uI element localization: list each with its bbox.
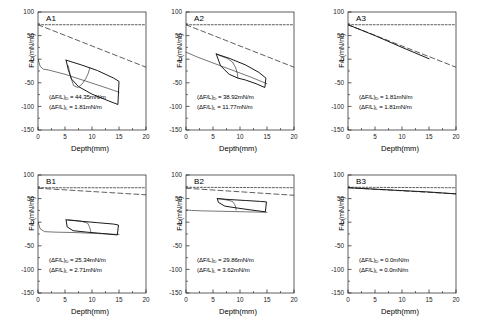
series-hysteresis-loop-outer: [217, 199, 266, 212]
y-axis-label: F/L(mN/m): [27, 179, 36, 249]
x-tick-label: 20: [452, 296, 460, 303]
y-tick-label: 100: [333, 171, 344, 178]
plot-area-b1: 100500-50-100-15005101520: [0, 163, 164, 327]
x-tick-label: 15: [115, 133, 123, 140]
y-tick-label: -100: [21, 103, 34, 110]
x-tick-label: 15: [425, 133, 433, 140]
x-tick-label: 0: [346, 296, 350, 303]
annotation-delta-l: (ΔF/L)L = 1.81mN/m: [49, 103, 102, 111]
annotation-delta-d: (ΔF/L)D = 0.0mN/m: [359, 256, 409, 264]
y-tick-label: -150: [169, 289, 182, 296]
chart-panel-a2: 100500-50-100-15005101520A2(ΔF/L)D = 38.…: [148, 0, 312, 164]
series-coincident-solid-line: [348, 25, 429, 59]
x-tick-label: 5: [211, 296, 215, 303]
y-tick-label: -100: [21, 266, 34, 273]
x-tick-label: 5: [373, 133, 377, 140]
annotation-delta-d: (ΔF/L)D = 25.34mN/m: [49, 256, 106, 264]
y-tick-label: -100: [169, 103, 182, 110]
y-tick-label: 100: [171, 171, 182, 178]
x-tick-label: 0: [184, 296, 188, 303]
annotation-delta-d: (ΔF/L)D = 44.35mN/m: [49, 93, 106, 101]
y-tick-label: 100: [23, 171, 34, 178]
series-baseline-descending-dashed: [38, 188, 146, 195]
x-tick-label: 10: [88, 133, 96, 140]
annotation-delta-d: (ΔF/L)D = 29.86mN/m: [197, 256, 254, 264]
panel-label-a3: A3: [356, 14, 366, 23]
x-tick-label: 20: [290, 296, 298, 303]
plot-area-b2: 100500-50-100-15005101520: [148, 163, 312, 327]
chart-panel-b2: 100500-50-100-15005101520B2(ΔF/L)D = 29.…: [148, 163, 312, 327]
plot-area-b3: 100500-50-100-15005101520: [310, 163, 474, 327]
panel-label-b2: B2: [194, 177, 204, 186]
x-tick-label: 0: [184, 133, 188, 140]
y-tick-label: 100: [333, 8, 344, 15]
x-tick-label: 10: [88, 296, 96, 303]
series-baseline-descending-dashed: [38, 25, 146, 67]
plot-area-a1: 100500-50-100-15005101520: [0, 0, 164, 164]
chart-panel-a1: 100500-50-100-15005101520A1(ΔF/L)D = 44.…: [0, 0, 164, 164]
panel-label-a1: A1: [46, 14, 56, 23]
x-axis-label: Depth(mm): [178, 307, 298, 316]
panel-label-b1: B1: [46, 177, 56, 186]
x-tick-label: 20: [452, 133, 460, 140]
chart-panel-b1: 100500-50-100-15005101520B1(ΔF/L)D = 25.…: [0, 163, 164, 327]
x-tick-label: 15: [115, 296, 123, 303]
x-tick-label: 10: [398, 133, 406, 140]
plot-frame: [38, 12, 146, 130]
x-tick-label: 15: [425, 296, 433, 303]
y-axis-label: F/L(mN/m): [27, 16, 36, 86]
annotation-delta-l: (ΔF/L)L = 3.62mN/m: [197, 266, 250, 274]
x-axis-label: Depth(mm): [340, 307, 460, 316]
x-axis-label: Depth(mm): [30, 307, 150, 316]
x-axis-label: Depth(mm): [340, 144, 460, 153]
series-hysteresis-loop-outer: [216, 54, 266, 88]
y-tick-label: -150: [331, 126, 344, 133]
y-tick-label: -150: [169, 126, 182, 133]
y-tick-label: 100: [23, 8, 34, 15]
y-tick-label: -150: [21, 289, 34, 296]
annotation-delta-l: (ΔF/L)L = 0.0mN/m: [359, 266, 408, 274]
x-tick-label: 10: [236, 296, 244, 303]
x-tick-label: 0: [346, 133, 350, 140]
x-tick-label: 10: [236, 133, 244, 140]
annotation-delta-l: (ΔF/L)L = 11.77mN/m: [197, 103, 252, 111]
chart-panel-b3: 100500-50-100-15005101520B3(ΔF/L)D = 0.0…: [310, 163, 474, 327]
plot-area-a3: 100500-50-100-15005101520: [310, 0, 474, 164]
x-tick-label: 20: [290, 133, 298, 140]
panel-label-a2: A2: [194, 14, 204, 23]
x-axis-label: Depth(mm): [30, 144, 150, 153]
plot-frame: [186, 175, 294, 293]
panel-label-b3: B3: [356, 177, 366, 186]
y-axis-label: F/L(mN/m): [337, 16, 346, 86]
y-axis-label: F/L(mN/m): [337, 179, 346, 249]
y-tick-label: -100: [169, 266, 182, 273]
y-tick-label: -150: [21, 126, 34, 133]
plot-frame: [186, 12, 294, 130]
x-tick-label: 10: [398, 296, 406, 303]
x-tick-label: 5: [63, 133, 67, 140]
x-tick-label: 0: [36, 296, 40, 303]
annotation-delta-l: (ΔF/L)L = 1.81mN/m: [359, 103, 412, 111]
series-initial-descent-solid: [38, 222, 119, 234]
y-tick-label: -100: [331, 103, 344, 110]
series-coincident-solid-line: [348, 188, 456, 194]
y-tick-label: -150: [331, 289, 344, 296]
x-tick-label: 5: [63, 296, 67, 303]
x-tick-label: 15: [263, 296, 271, 303]
x-axis-label: Depth(mm): [178, 144, 298, 153]
y-tick-label: -100: [331, 266, 344, 273]
y-axis-label: F/L(mN/m): [175, 179, 184, 249]
y-tick-label: 100: [171, 8, 182, 15]
x-tick-label: 0: [36, 133, 40, 140]
series-baseline-descending-dashed: [186, 25, 294, 67]
plot-frame: [348, 12, 456, 130]
annotation-delta-d: (ΔF/L)D = 38.92mN/m: [197, 93, 254, 101]
x-tick-label: 5: [373, 296, 377, 303]
plot-area-a2: 100500-50-100-15005101520: [148, 0, 312, 164]
figure-panel-grid: 100500-50-100-15005101520A1(ΔF/L)D = 44.…: [0, 0, 493, 328]
x-tick-label: 15: [263, 133, 271, 140]
series-baseline-descending-dashed: [186, 188, 294, 195]
y-axis-label: F/L(mN/m): [175, 16, 184, 86]
plot-frame: [38, 175, 146, 293]
x-tick-label: 5: [211, 133, 215, 140]
